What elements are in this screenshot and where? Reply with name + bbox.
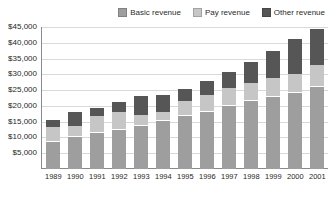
legend-swatch-pay-revenue bbox=[193, 8, 202, 17]
bar-segment-basic-revenue bbox=[266, 97, 280, 169]
bar-group[interactable] bbox=[200, 27, 214, 169]
y-axis-tick-label: $20,000 bbox=[0, 102, 37, 110]
bar-group[interactable] bbox=[178, 27, 192, 169]
legend-swatch-other-revenue bbox=[262, 8, 271, 17]
x-axis-tick-label: 1999 bbox=[265, 172, 279, 181]
x-axis-tick-labels: 1989199019911992199319941995199619971998… bbox=[42, 172, 328, 181]
bar-segment-basic-revenue bbox=[46, 142, 60, 169]
bar-segment-basic-revenue bbox=[288, 93, 302, 169]
bar-segment-basic-revenue bbox=[244, 101, 258, 169]
bar-segment-other-revenue bbox=[244, 62, 258, 83]
bar-segment-other-revenue bbox=[134, 96, 148, 115]
bar-segment-pay-revenue bbox=[288, 74, 302, 91]
bar-group[interactable] bbox=[244, 27, 258, 169]
bar-segment-basic-revenue bbox=[178, 116, 192, 169]
y-axis-tick-label: $35,000 bbox=[0, 55, 37, 63]
x-axis-tick-label: 1994 bbox=[155, 172, 169, 181]
y-axis-tick-label: $45,000 bbox=[0, 23, 37, 31]
x-axis-tick-label: 1991 bbox=[89, 172, 103, 181]
bar-segment-pay-revenue bbox=[156, 112, 170, 121]
bar-segment-pay-revenue bbox=[310, 65, 324, 86]
stacked-bar-chart: Basic revenue Pay revenue Other revenue … bbox=[0, 0, 333, 198]
legend-label-basic-revenue: Basic revenue bbox=[130, 8, 181, 17]
chart-legend: Basic revenue Pay revenue Other revenue bbox=[0, 8, 333, 17]
x-axis-tick-label: 1990 bbox=[67, 172, 81, 181]
legend-entry-basic-revenue[interactable]: Basic revenue bbox=[118, 8, 181, 17]
bar-group[interactable] bbox=[266, 27, 280, 169]
bar-series-container bbox=[42, 27, 328, 169]
x-axis-tick-label: 2001 bbox=[309, 172, 323, 181]
bar-segment-pay-revenue bbox=[266, 78, 280, 96]
x-axis-tick-label: 1989 bbox=[45, 172, 59, 181]
x-axis-tick-label: 1995 bbox=[177, 172, 191, 181]
bar-segment-basic-revenue bbox=[134, 126, 148, 169]
legend-entry-pay-revenue[interactable]: Pay revenue bbox=[193, 8, 250, 17]
y-axis-tick-label: $5,000 bbox=[0, 149, 37, 157]
legend-entry-other-revenue[interactable]: Other revenue bbox=[262, 8, 325, 17]
x-axis-tick-label: 2000 bbox=[287, 172, 301, 181]
bar-group[interactable] bbox=[288, 27, 302, 169]
bar-segment-basic-revenue bbox=[68, 137, 82, 169]
bar-segment-other-revenue bbox=[68, 112, 82, 125]
x-axis-tick-label: 1997 bbox=[221, 172, 235, 181]
x-axis-tick-label: 1993 bbox=[133, 172, 147, 181]
x-axis-tick-label: 1998 bbox=[243, 172, 257, 181]
bar-segment-pay-revenue bbox=[244, 83, 258, 100]
bar-segment-basic-revenue bbox=[112, 130, 126, 169]
bar-segment-other-revenue bbox=[90, 108, 104, 117]
bar-segment-other-revenue bbox=[310, 29, 324, 66]
bar-group[interactable] bbox=[46, 27, 60, 169]
bar-group[interactable] bbox=[310, 27, 324, 169]
legend-label-pay-revenue: Pay revenue bbox=[205, 8, 250, 17]
bar-segment-other-revenue bbox=[266, 51, 280, 78]
bar-segment-pay-revenue bbox=[222, 88, 236, 105]
y-axis-tick-label: $40,000 bbox=[0, 39, 37, 47]
bar-segment-basic-revenue bbox=[90, 133, 104, 169]
x-axis-tick-label: 1996 bbox=[199, 172, 213, 181]
bar-segment-other-revenue bbox=[112, 102, 126, 112]
bar-segment-other-revenue bbox=[288, 39, 302, 75]
bar-segment-basic-revenue bbox=[222, 106, 236, 169]
bar-segment-other-revenue bbox=[200, 81, 214, 96]
legend-swatch-basic-revenue bbox=[118, 8, 127, 17]
bar-segment-basic-revenue bbox=[156, 121, 170, 169]
bar-group[interactable] bbox=[112, 27, 126, 169]
bar-segment-pay-revenue bbox=[134, 115, 148, 125]
bar-segment-other-revenue bbox=[156, 95, 170, 111]
bar-segment-basic-revenue bbox=[310, 87, 324, 169]
bar-segment-pay-revenue bbox=[200, 95, 214, 110]
bar-segment-other-revenue bbox=[46, 120, 60, 128]
bar-group[interactable] bbox=[156, 27, 170, 169]
bar-segment-pay-revenue bbox=[46, 127, 60, 141]
bar-segment-basic-revenue bbox=[200, 112, 214, 169]
bar-segment-pay-revenue bbox=[90, 116, 104, 132]
bar-segment-pay-revenue bbox=[112, 112, 126, 129]
bar-segment-pay-revenue bbox=[178, 101, 192, 115]
y-axis-tick-label: $30,000 bbox=[0, 70, 37, 78]
bar-group[interactable] bbox=[90, 27, 104, 169]
y-axis-tick-label: $15,000 bbox=[0, 118, 37, 126]
y-axis-tick-label: $10,000 bbox=[0, 133, 37, 141]
y-axis-tick-label: $25,000 bbox=[0, 86, 37, 94]
bar-segment-other-revenue bbox=[178, 89, 192, 102]
bar-segment-pay-revenue bbox=[68, 126, 82, 137]
bar-group[interactable] bbox=[134, 27, 148, 169]
bar-group[interactable] bbox=[222, 27, 236, 169]
bar-group[interactable] bbox=[68, 27, 82, 169]
x-axis-tick-label: 1992 bbox=[111, 172, 125, 181]
legend-label-other-revenue: Other revenue bbox=[274, 8, 325, 17]
bar-segment-other-revenue bbox=[222, 72, 236, 88]
